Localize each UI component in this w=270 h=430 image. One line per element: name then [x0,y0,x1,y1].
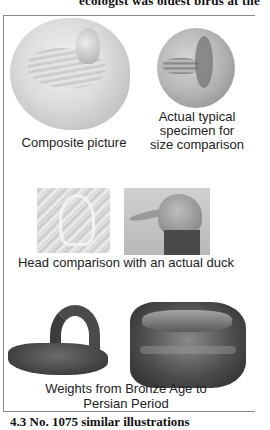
bottom-text-fragment: 4.3 No. 1075 similar illustrations [10,414,270,428]
bronze-age-weight-image [8,305,116,381]
duck-head-photo [124,188,210,255]
caption-specimen-line-3: size comparison [145,138,249,152]
caption-specimen-line-2: specimen for [145,124,249,138]
caption-head-comparison: Head comparison with an actual duck [3,256,249,270]
seal-head-closeup-image [37,188,110,253]
caption-composite: Composite picture [14,136,134,150]
caption-weights-line-1: Weights from Bronze Age to [3,381,249,396]
caption-weights-line-2: Persian Period [3,396,249,411]
composite-seal-image [10,18,130,130]
caption-weights: Weights from Bronze Age to Persian Perio… [3,381,249,411]
duck-neck [164,230,200,255]
top-text-fragment: ecologist was oldest birds at the [0,0,260,7]
caption-specimen: Actual typical specimen for size compari… [145,110,249,152]
caption-specimen-line-1: Actual typical [145,110,249,124]
weight-body [8,343,108,375]
actual-seal-specimen-image [157,28,235,108]
persian-weight-image [130,302,246,388]
